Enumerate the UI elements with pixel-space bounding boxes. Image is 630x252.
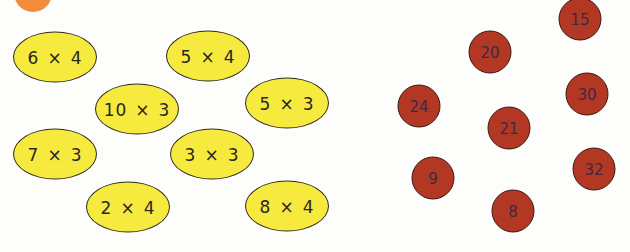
answer-value: 24: [409, 97, 428, 115]
expression-ellipse[interactable]: 5×3: [245, 78, 329, 129]
multiply-sign: ×: [200, 46, 215, 66]
expression-factor-b: 3: [159, 99, 171, 119]
expression-factor-a: 2: [101, 197, 113, 217]
multiply-sign: ×: [47, 144, 62, 164]
multiply-sign: ×: [204, 144, 219, 164]
expression-factor-b: 4: [303, 196, 315, 216]
expression-factor-a: 8: [260, 196, 272, 216]
expression-ellipse[interactable]: 3×3: [170, 129, 254, 180]
answer-value: 9: [428, 169, 438, 187]
expression-ellipse[interactable]: 7×3: [13, 129, 97, 180]
answer-value: 15: [570, 10, 589, 28]
expression-ellipse[interactable]: 2×4: [86, 182, 170, 233]
expression-factor-b: 4: [71, 47, 83, 67]
expression-factor-a: 3: [185, 144, 197, 164]
expression-ellipse[interactable]: 8×4: [245, 181, 329, 232]
expression-ellipse[interactable]: 6×4: [13, 32, 97, 83]
expression-factor-a: 6: [28, 47, 40, 67]
expression-factor-a: 5: [181, 46, 193, 66]
answer-value: 8: [508, 202, 518, 220]
multiply-sign: ×: [120, 197, 135, 217]
answer-circle[interactable]: 20: [469, 31, 512, 74]
answer-circle[interactable]: 24: [398, 85, 441, 128]
expression-factor-b: 4: [144, 197, 156, 217]
expression-factor-b: 3: [303, 93, 315, 113]
answer-value: 21: [499, 119, 518, 137]
answer-circle[interactable]: 21: [488, 107, 531, 150]
answer-value: 20: [480, 43, 499, 61]
multiply-sign: ×: [47, 47, 62, 67]
expression-ellipse[interactable]: 5×4: [166, 31, 250, 82]
multiply-sign: ×: [279, 93, 294, 113]
answer-circle[interactable]: 30: [566, 73, 609, 116]
multiply-sign: ×: [279, 196, 294, 216]
answer-circle[interactable]: 9: [412, 157, 455, 200]
expression-factor-b: 4: [224, 46, 236, 66]
expression-factor-a: 5: [260, 93, 272, 113]
multiply-sign: ×: [135, 99, 150, 119]
answer-circle[interactable]: 32: [573, 148, 616, 191]
expression-factor-b: 3: [228, 144, 240, 164]
expression-factor-a: 7: [28, 144, 40, 164]
expression-factor-b: 3: [71, 144, 83, 164]
answer-value: 30: [577, 85, 596, 103]
expression-ellipse[interactable]: 10×3: [95, 84, 179, 135]
expression-factor-a: 10: [104, 99, 128, 119]
answer-value: 32: [584, 160, 603, 178]
answer-circle[interactable]: 8: [492, 190, 535, 233]
